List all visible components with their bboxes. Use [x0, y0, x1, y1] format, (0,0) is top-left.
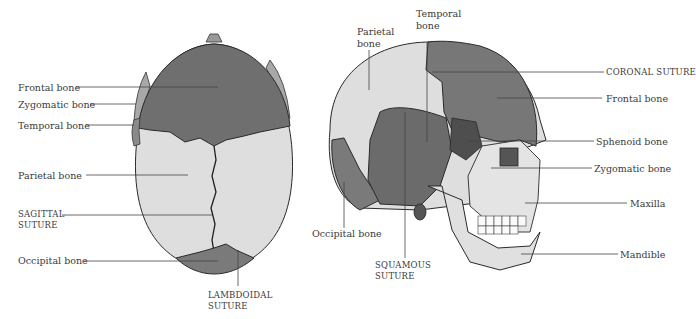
label-squamous-suture-line1: SQUAMOUS — [375, 260, 431, 271]
label-lambdoidal-suture-line2: SUTURE — [208, 301, 248, 312]
label-temporal-bone-lateral-line1: Temporal — [416, 8, 461, 19]
label-sagittal-suture-line1: SAGITTAL — [18, 209, 65, 220]
label-parietal-bone-lateral-line2: bone — [357, 38, 381, 49]
label-parietal-bone-lateral-line1: Parietal — [357, 26, 394, 37]
label-zygomatic-bone-lateral: Zygomatic bone — [594, 163, 671, 174]
label-frontal-bone-superior: Frontal bone — [18, 82, 80, 93]
label-squamous-suture-line2: SUTURE — [375, 271, 415, 282]
label-sphenoid-bone: Sphenoid bone — [596, 136, 668, 147]
label-mandible: Mandible — [620, 249, 665, 260]
label-occipital-bone-lateral: Occipital bone — [312, 228, 382, 239]
label-maxilla: Maxilla — [630, 198, 666, 209]
label-occipital-bone-superior: Occipital bone — [18, 255, 88, 266]
label-temporal-bone-lateral-line2: bone — [416, 20, 440, 31]
label-sagittal-suture-line2: SUTURE — [18, 220, 58, 231]
label-temporal-bone-superior: Temporal bone — [18, 120, 90, 131]
label-frontal-bone-lateral: Frontal bone — [606, 93, 668, 104]
label-coronal-suture: CORONAL SUTURE — [606, 67, 696, 78]
label-parietal-bone-superior: Parietal bone — [18, 170, 82, 181]
label-lambdoidal-suture-line1: LAMBDOIDAL — [208, 290, 272, 301]
label-zygomatic-bone-superior: Zygomatic bone — [18, 99, 95, 110]
superior-view-skull — [132, 34, 293, 274]
